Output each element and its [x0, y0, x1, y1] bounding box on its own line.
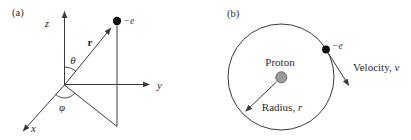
- x-axis-label: x: [30, 122, 36, 134]
- z-axis-label: z: [44, 17, 50, 29]
- azimuthal-angle-phi-label: φ: [59, 101, 65, 113]
- electron-dot-b: [322, 46, 330, 54]
- electron-label-b: −e: [332, 41, 343, 51]
- radius-symbol: r: [298, 101, 303, 113]
- panel-a-label: (a): [12, 7, 24, 19]
- proton-dot: [276, 72, 287, 83]
- position-vector-label: r: [88, 36, 93, 48]
- electron-label-a: −e: [124, 16, 135, 26]
- panel-b-orbit-diagram: (b) Proton Radius, r −e Velocity, v: [227, 8, 399, 130]
- physics-figure: (a) z y x r θ φ −e (b): [0, 0, 411, 140]
- proton-label: Proton: [265, 56, 295, 68]
- velocity-label-text: Velocity,: [353, 61, 394, 73]
- xy-plane-projection-line: [65, 85, 118, 127]
- y-axis-label: y: [156, 79, 162, 91]
- phi-angle-arc: [55, 93, 74, 98]
- velocity-symbol: v: [394, 61, 399, 73]
- radius-label: Radius, r: [262, 101, 303, 113]
- velocity-label: Velocity, v: [353, 61, 399, 73]
- theta-angle-arc: [65, 67, 76, 71]
- electron-dot-a: [113, 17, 121, 25]
- polar-angle-theta-label: θ: [70, 54, 76, 66]
- velocity-arrow: [329, 54, 349, 85]
- panel-b-label: (b): [227, 8, 240, 20]
- figure-canvas: (a) z y x r θ φ −e (b): [0, 0, 411, 140]
- panel-a-spherical-coordinates: (a) z y x r θ φ −e: [12, 7, 162, 134]
- radius-label-text: Radius,: [262, 101, 298, 113]
